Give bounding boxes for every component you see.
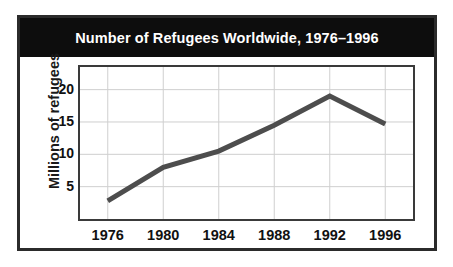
x-axis-tick-label: 1988 bbox=[246, 227, 302, 243]
x-axis-tick-labels: 197619801984198819921996 bbox=[78, 223, 415, 249]
x-axis-tick-label: 1976 bbox=[80, 227, 136, 243]
x-axis-tick-label: 1996 bbox=[357, 227, 413, 243]
plot-area bbox=[78, 65, 415, 221]
y-axis-tick-labels: 5101520 bbox=[42, 57, 74, 227]
chart-title: Number of Refugees Worldwide, 1976–1996 bbox=[75, 30, 378, 46]
chart-body: Millions of refugees 5101520 19761980198… bbox=[20, 57, 434, 248]
chart-figure: Number of Refugees Worldwide, 1976–1996 … bbox=[17, 15, 437, 251]
plot-svg bbox=[80, 67, 413, 219]
x-axis-tick-label: 1992 bbox=[302, 227, 358, 243]
x-axis-tick-label: 1984 bbox=[191, 227, 247, 243]
chart-title-banner: Number of Refugees Worldwide, 1976–1996 bbox=[20, 18, 434, 57]
data-line-series-0 bbox=[108, 96, 386, 201]
y-axis-tick-label: 15 bbox=[48, 113, 74, 129]
y-axis-tick-label: 5 bbox=[48, 178, 74, 194]
y-axis-tick-label: 10 bbox=[48, 145, 74, 161]
grid-lines bbox=[80, 67, 413, 219]
x-axis-tick-label: 1980 bbox=[135, 227, 191, 243]
y-axis-tick-label: 20 bbox=[48, 81, 74, 97]
